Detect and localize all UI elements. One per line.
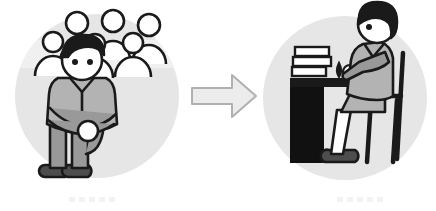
seated-person-knee — [78, 121, 98, 141]
caption-dot — [337, 197, 343, 202]
desk-side-panel — [290, 87, 324, 163]
arrow-right-icon — [192, 75, 256, 117]
crowd-head — [102, 10, 124, 32]
stack-of-books — [292, 47, 331, 76]
crowd-head — [66, 12, 88, 34]
caption-dot — [347, 197, 353, 202]
caption-dot — [377, 197, 383, 202]
caption-dot — [79, 197, 85, 202]
scene-after-graphic — [255, 0, 436, 211]
crowd-head — [138, 14, 160, 36]
book-bottom — [292, 67, 326, 76]
scene-after — [255, 0, 436, 211]
crowd-head — [123, 33, 143, 53]
transition-arrow-graphic — [186, 0, 262, 211]
seated-person-eye-right — [87, 59, 93, 65]
caption-before — [62, 194, 122, 204]
caption-after — [330, 194, 390, 204]
illustration-stage — [0, 0, 436, 211]
crowd-head — [43, 32, 63, 52]
scene-before-graphic — [0, 0, 190, 211]
book-middle — [293, 57, 331, 66]
caption-dot — [69, 197, 75, 202]
caption-dot — [89, 197, 95, 202]
small-object-icon — [337, 63, 341, 77]
caption-dot — [357, 197, 363, 202]
scene-before — [0, 0, 190, 211]
seated-person-eye-left — [72, 59, 78, 65]
book-top — [295, 47, 329, 56]
caption-dot — [367, 197, 373, 202]
caption-dot — [109, 197, 115, 202]
transition-arrow — [186, 0, 262, 211]
caption-dot — [99, 197, 105, 202]
working-person-eye — [366, 24, 372, 30]
